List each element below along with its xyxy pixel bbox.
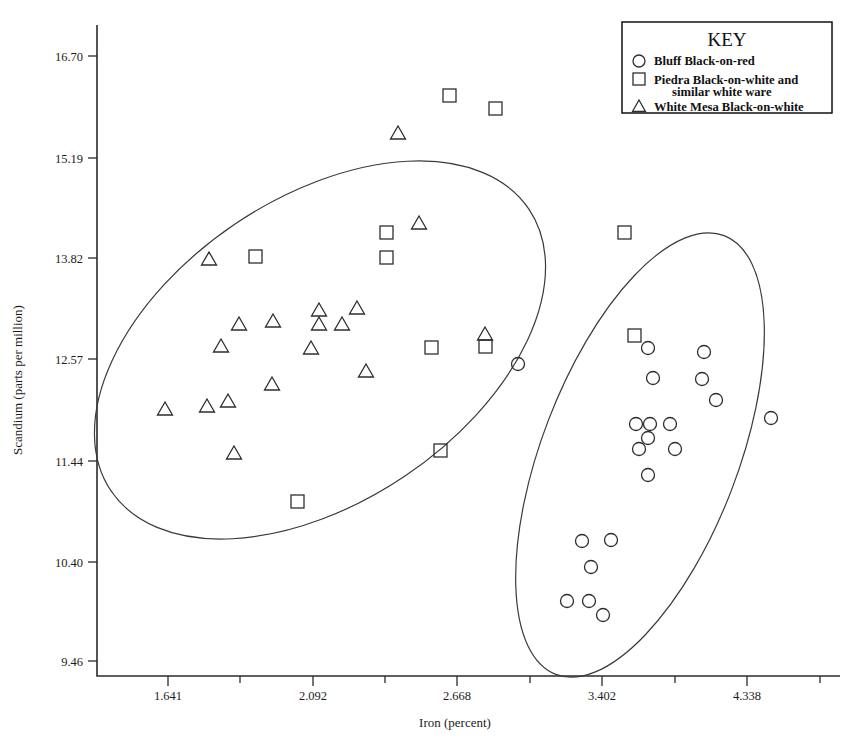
data-point-triangle [391,126,406,139]
data-point-circle [644,418,657,431]
data-point-circle [696,373,709,386]
data-point-triangle [221,394,236,407]
data-point-circle [710,394,723,407]
data-point-triangle [312,317,327,330]
data-point-square [628,329,641,342]
data-point-circle [669,443,682,456]
x-tick-label: 2.668 [443,689,471,703]
data-point-circle [605,534,618,547]
y-tick-label: 9.46 [61,655,83,669]
legend-title: KEY [707,29,746,50]
legend-entry-label: Bluff Black-on-red [654,54,755,68]
data-point-triangle [232,317,247,330]
data-point-circle [765,412,778,425]
data-point-circle [698,346,711,359]
data-point-circle [597,609,610,622]
y-tick-label: 11.44 [55,455,83,469]
axis-lines [97,25,840,676]
data-point-circle [585,561,598,574]
x-axis-ticks [168,676,820,686]
data-point-triangle [359,364,374,377]
legend: KEY Bluff Black-on-red Piedra Black-on-w… [622,22,832,114]
data-point-triangle [200,399,215,412]
y-axis-tick-labels: 16.70 15.19 13.82 12.57 11.44 10.40 9.46 [55,50,84,669]
data-point-square [380,226,393,239]
legend-entry-label-line2: similar white ware [672,85,772,99]
data-point-triangle [158,402,173,415]
x-tick-label: 4.338 [733,689,761,703]
data-point-square [380,251,393,264]
data-point-triangle [312,303,327,316]
data-point-triangle [266,314,281,327]
y-axis-ticks [88,56,97,661]
data-point-circle [642,342,655,355]
data-point-triangle [214,339,229,352]
data-point-triangle [478,327,493,340]
data-point-circle [642,469,655,482]
x-tick-label: 3.402 [588,689,616,703]
axis-frame [97,25,840,676]
y-tick-label: 15.19 [55,152,83,166]
x-axis-title: Iron (percent) [419,715,491,730]
y-tick-label: 13.82 [55,252,83,266]
square-marker-icon [633,73,645,85]
data-point-square [425,341,438,354]
data-point-square [618,226,631,239]
triangle-marker-icon [633,100,646,112]
data-point-triangle [227,446,242,459]
data-point-circle [647,372,660,385]
data-point-triangle [304,341,319,354]
x-tick-label: 1.641 [154,689,182,703]
series-white-mesa-markers [158,126,493,459]
data-point-square [249,250,262,263]
circle-marker-icon [633,55,645,67]
data-point-triangle [412,216,427,229]
data-point-square [489,102,502,115]
data-point-square [479,340,492,353]
data-point-circle [576,535,589,548]
data-point-square [291,495,304,508]
data-point-circle [630,418,643,431]
x-axis-tick-labels: 1.641 2.092 2.668 3.402 4.338 [154,689,761,703]
x-tick-label: 2.092 [299,689,327,703]
data-point-circle [633,443,646,456]
data-point-circle [561,595,574,608]
data-point-square [443,89,456,102]
scatter-plot-figure: 16.70 15.19 13.82 12.57 11.44 10.40 9.46… [0,0,845,747]
data-point-triangle [350,301,365,314]
cluster-ellipses [26,83,816,709]
data-point-circle [664,418,677,431]
y-tick-label: 12.57 [55,353,83,367]
data-point-triangle [335,317,350,330]
data-point-circle [642,432,655,445]
series-bluff-markers [512,342,778,622]
chart-canvas: 16.70 15.19 13.82 12.57 11.44 10.40 9.46… [0,0,845,747]
y-axis-title: Scandium (parts per million) [10,305,25,455]
data-point-triangle [202,252,217,265]
ellipse-left-cluster [26,83,614,617]
legend-entry-label: White Mesa Black-on-white [654,100,804,114]
data-point-circle [583,595,596,608]
y-tick-label: 16.70 [55,50,83,64]
data-point-triangle [265,377,280,390]
y-tick-label: 10.40 [55,556,83,570]
